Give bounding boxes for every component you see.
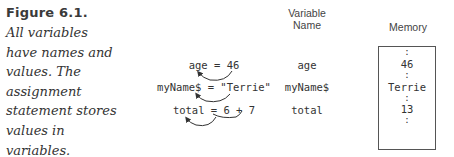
underline-expression bbox=[213, 111, 242, 118]
memory-separator: : bbox=[404, 70, 409, 81]
arrow-age-icon bbox=[199, 71, 232, 80]
arrow-total-icon bbox=[187, 117, 216, 126]
memory-value-age: 46 bbox=[401, 59, 414, 70]
memory-value-myname: Terrie bbox=[388, 82, 426, 93]
variable-name-myname: myName$ bbox=[285, 81, 329, 93]
variable-name-total: total bbox=[291, 104, 323, 116]
memory-value-total: 13 bbox=[401, 104, 414, 115]
variable-name-age: age bbox=[298, 59, 317, 71]
variable-name-header: Variable Name bbox=[288, 7, 326, 31]
memory-separator: : bbox=[404, 115, 409, 126]
arrow-myname-icon bbox=[197, 94, 230, 102]
memory-header: Memory bbox=[389, 21, 427, 33]
memory-separator: : bbox=[404, 47, 409, 58]
